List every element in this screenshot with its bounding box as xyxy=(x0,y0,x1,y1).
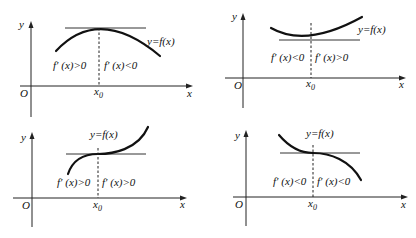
left-derivative-sign: f′ (x)>0 xyxy=(57,176,91,189)
x-axis-label: x xyxy=(398,78,404,90)
left-derivative-sign: f′ (x)<0 xyxy=(271,51,305,64)
x-axis-label: x xyxy=(179,198,185,210)
right-derivative-sign: f′ (x)<0 xyxy=(104,59,138,72)
curve xyxy=(271,17,362,36)
derivative-sign-diagrams: y O x x0 y=f(x) f′ (x)>0 f′ (x)<0 y O x … xyxy=(0,0,416,238)
y-axis-label: y xyxy=(20,131,26,143)
right-derivative-sign: f′ (x)<0 xyxy=(317,175,351,188)
y-axis-label: y xyxy=(234,129,240,141)
origin-label: O xyxy=(20,87,28,99)
origin-label: O xyxy=(22,199,30,211)
curve-label: y=f(x) xyxy=(89,128,118,141)
right-derivative-sign: f′ (x)>0 xyxy=(102,176,136,189)
x0-label: x0 xyxy=(305,77,315,92)
x0-label: x0 xyxy=(93,85,103,100)
x-axis-label: x xyxy=(186,87,192,99)
origin-label: O xyxy=(234,79,242,91)
y-axis-arrow-icon xyxy=(241,13,246,20)
panel-increasing-inflection: y O x x0 y=f(x) f′ (x)>0 f′ (x)>0 xyxy=(13,127,187,227)
y-axis-label: y xyxy=(18,18,24,30)
curve xyxy=(279,135,361,180)
panel-decreasing-inflection: y O x x0 y=f(x) f′ (x)<0 f′ (x)<0 xyxy=(233,127,408,226)
x0-label: x0 xyxy=(307,197,317,212)
y-axis-arrow-icon xyxy=(30,132,35,139)
left-derivative-sign: f′ (x)>0 xyxy=(53,59,87,72)
curve xyxy=(56,29,160,56)
x0-label: x0 xyxy=(92,198,102,213)
left-derivative-sign: f′ (x)<0 xyxy=(273,175,307,188)
x-axis-label: x xyxy=(400,198,406,210)
origin-label: O xyxy=(235,198,243,210)
right-derivative-sign: f′ (x)>0 xyxy=(315,51,349,64)
y-axis-label: y xyxy=(231,10,237,22)
panel-local-min: y O x x0 y=f(x) f′ (x)<0 f′ (x)>0 xyxy=(225,10,406,108)
curve-label: y=f(x) xyxy=(146,35,175,48)
panel-local-max: y O x x0 y=f(x) f′ (x)>0 f′ (x)<0 xyxy=(18,18,193,117)
curve-label: y=f(x) xyxy=(357,23,386,36)
y-axis-arrow-icon xyxy=(29,21,34,28)
curve-label: y=f(x) xyxy=(305,127,334,140)
y-axis-arrow-icon xyxy=(244,130,249,137)
